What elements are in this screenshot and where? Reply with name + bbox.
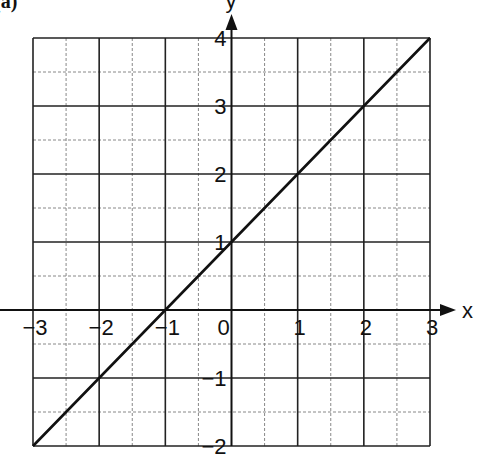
y-tick-label: −2 (201, 434, 226, 459)
x-tick-label: −1 (155, 315, 180, 340)
x-tick-label: 2 (360, 315, 372, 340)
y-tick-label: 3 (214, 94, 226, 119)
x-axis-label: x (462, 298, 473, 323)
y-tick-label: 4 (214, 26, 226, 51)
y-tick-label: 2 (214, 162, 226, 187)
x-tick-label: −2 (89, 315, 114, 340)
axis-labels: xy (226, 0, 474, 323)
y-axis-arrow-icon (226, 14, 238, 30)
y-tick-label: −1 (201, 366, 226, 391)
line-graph: −3−2−10123−2−11234 xy (0, 0, 483, 464)
y-tick-label: 1 (214, 230, 226, 255)
axes (0, 14, 456, 446)
x-axis-arrow-icon (440, 304, 456, 316)
x-tick-label: 3 (426, 315, 438, 340)
y-axis-label: y (226, 0, 237, 13)
x-tick-label: 1 (294, 315, 306, 340)
x-tick-label: −3 (22, 315, 47, 340)
x-tick-label: 0 (217, 315, 229, 340)
